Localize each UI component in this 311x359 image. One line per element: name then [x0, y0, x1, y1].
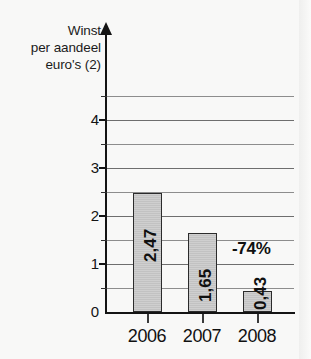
y-tick-minor-1-5: [101, 240, 107, 241]
x-label-2006: 2006: [117, 326, 177, 347]
y-tick-minor-0-5: [101, 288, 107, 289]
bar-value-2008: 0,43: [251, 277, 271, 310]
x-tick-2007: [202, 314, 204, 323]
y-tick-label-1: 1: [73, 255, 99, 272]
y-tick-label-3: 3: [73, 159, 99, 176]
y-tick-major-4: [99, 119, 107, 121]
y-tick-minor-4-5: [101, 96, 107, 97]
y-axis-title: Winst per aandeel euro's (2): [6, 22, 101, 73]
y-tick-major-3: [99, 167, 107, 169]
y-tick-label-0: 0: [73, 303, 99, 320]
bar-value-2006: 2,47: [141, 229, 161, 262]
y-tick-minor-3-5: [101, 144, 107, 145]
x-label-2008: 2008: [227, 326, 287, 347]
x-axis-line: [105, 312, 295, 314]
x-label-2007: 2007: [172, 326, 232, 347]
y-tick-major-1: [99, 263, 107, 265]
y-tick-label-4: 4: [73, 111, 99, 128]
gridline-3-5: [107, 144, 294, 145]
x-tick-2006: [147, 314, 149, 323]
page-seam: [299, 0, 311, 359]
y-axis-title-line-1: Winst: [6, 22, 101, 39]
gridline-3: [107, 168, 294, 169]
y-axis-title-line-3: euro's (2): [6, 56, 101, 73]
y-axis-title-line-2: per aandeel: [6, 39, 101, 56]
bar-value-2007: 1,65: [196, 269, 216, 302]
y-tick-major-2: [99, 215, 107, 217]
x-tick-2008: [257, 314, 259, 323]
gridline-4-5: [107, 96, 294, 97]
y-tick-minor-2-5: [101, 192, 107, 193]
pct-change-annotation: -74%: [232, 239, 271, 259]
gridline-4: [107, 120, 294, 121]
bar-chart-figure: Winst per aandeel euro's (2) 4 3 2 1 0 2…: [0, 0, 311, 359]
y-tick-label-2: 2: [73, 207, 99, 224]
